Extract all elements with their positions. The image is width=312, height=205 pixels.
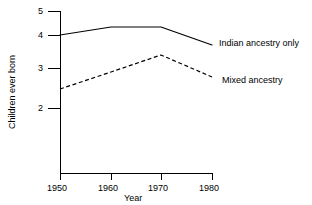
- chart-plot-area: Children ever born: [0, 0, 312, 205]
- series-label-indian-ancestry-only: Indian ancestry only: [219, 39, 299, 48]
- chart-figure: Children ever born 5 4 3 2 1950 1960 197…: [0, 0, 312, 205]
- y-tick-label-4: 4: [38, 31, 43, 40]
- x-tick-label-1950: 1950: [47, 184, 67, 193]
- series-line-mixed-ancestry: [60, 55, 212, 89]
- series-label-mixed-ancestry: Mixed ancestry: [222, 76, 283, 85]
- y-axis-title: Children ever born: [7, 55, 17, 129]
- series-line-indian-ancestry-only: [60, 27, 212, 45]
- x-tick-label-1960: 1960: [98, 184, 118, 193]
- x-tick-label-1970: 1970: [148, 184, 168, 193]
- y-tick-label-2: 2: [38, 104, 43, 113]
- y-tick-label-3: 3: [38, 64, 43, 73]
- x-tick-label-1980: 1980: [199, 184, 219, 193]
- y-tick-label-5: 5: [38, 7, 43, 16]
- x-axis-title: Year: [124, 194, 142, 203]
